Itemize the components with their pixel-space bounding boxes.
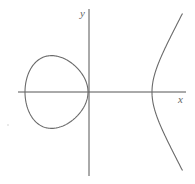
y-axis-label: y [79, 7, 85, 19]
stray-mark [7, 124, 9, 126]
x-axis-label: x [177, 93, 183, 105]
elliptic-curve-figure: y x [0, 0, 195, 184]
